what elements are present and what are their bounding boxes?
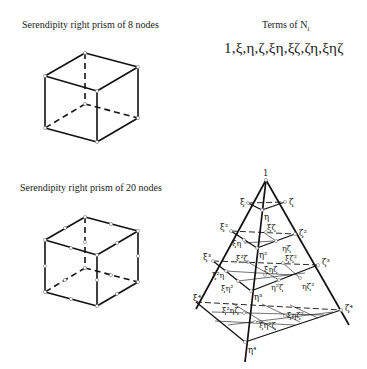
layer3-xi-label: ξ³	[203, 252, 211, 262]
apex-label: 1	[263, 168, 268, 178]
layer3-inner-label-0: ξ²ζ	[236, 254, 249, 263]
layer3-inner-label-6: ηζ²	[302, 282, 314, 291]
layer4-inner-label-0: ξ²ηζ	[222, 306, 239, 315]
layer3-inner-label-2: ξ²η	[212, 271, 225, 280]
layer3-inner-label-1: ξζ²	[285, 254, 297, 263]
layer4-inner-label-1: ξη²ζ	[259, 321, 276, 330]
layer4-eta-label: η⁴	[248, 345, 257, 355]
prism8-nodes	[43, 51, 139, 143]
layer1-xi-label: ξ	[240, 197, 245, 207]
layer3-eta-label: η³	[254, 292, 263, 302]
diagram-canvas: 1 ξ η ζ ξ² η² ζ² ξζ ξη ηζ ξ³ η³ ζ³ ξ²ζ ξ…	[0, 0, 367, 369]
layer2-eta-label: η²	[259, 250, 268, 260]
layer2-inner-label-1: ξη	[232, 239, 241, 248]
layer2-zeta-label: ζ²	[299, 228, 307, 238]
prism20-figure	[45, 217, 138, 306]
layer4-xi-label: ξ⁴	[193, 293, 202, 303]
layer3-zeta-label: ζ³	[322, 257, 330, 267]
layer2-xi-label: ξ²	[220, 222, 228, 232]
layer2-inner-label-0: ξζ	[267, 223, 276, 232]
layer4-inner-label-2: ξηζ²	[287, 311, 304, 320]
layer3-inner-label-3: ξηζ	[264, 265, 278, 274]
prism8-figure	[45, 53, 138, 142]
layer1-eta-label: η	[264, 212, 269, 222]
layer3-inner-label-5: η²ζ	[271, 283, 284, 292]
layer2-inner-label-2: ηζ	[282, 244, 292, 253]
layer4-zeta-label: ζ⁴	[345, 303, 354, 313]
layer3-inner-label-4: ξη²	[221, 284, 233, 293]
layer1-zeta-label: ζ	[289, 197, 294, 207]
prism20-nodes	[43, 215, 139, 307]
